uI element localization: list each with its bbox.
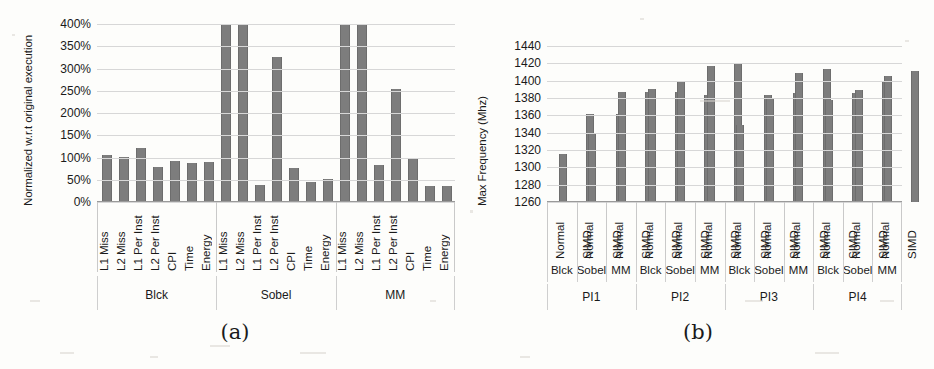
chart-a-category-label: CPI: [405, 205, 419, 271]
chart-b-benchmark-divider: [665, 260, 666, 282]
chart-b-y-tick: 1380: [514, 92, 541, 104]
chart-a-bar: [323, 179, 333, 202]
chart-b-supergroup-label: PI2: [671, 290, 689, 304]
chart-b-benchmark-label: Blck: [551, 264, 573, 276]
chart-a-category-label: L1 Miss: [218, 205, 232, 271]
chart-b-gridline: [547, 185, 902, 186]
chart-b-panel: Max Frequency (Mhz) 12601280130013201340…: [462, 0, 934, 369]
chart-a-bar: [153, 167, 163, 202]
chart-a-category-label: Time: [184, 205, 198, 271]
scan-artifact: [30, 300, 40, 302]
chart-a-gridline: [97, 180, 455, 181]
chart-b-gridline: [547, 46, 902, 47]
chart-b-benchmark-separator: [843, 202, 844, 260]
scan-artifact: [905, 40, 909, 42]
chart-a-category-labels: L1 MissL2 MissL1 Per InstL2 Per InstCPIT…: [97, 202, 455, 272]
scan-artifact: [880, 300, 894, 302]
chart-a-category-label: L1 Per Inst: [252, 205, 266, 271]
chart-a-category-label: L1 Per Inst: [133, 205, 147, 271]
chart-b-supergroup-divider: [813, 284, 814, 310]
figure-container: Normalized w.r.t original execution 0%50…: [0, 0, 934, 369]
scan-artifact: [815, 352, 839, 354]
chart-a-category-label: L1 Miss: [337, 205, 351, 271]
chart-b-y-tick: 1280: [514, 179, 541, 191]
chart-b-category-label: Normal: [851, 205, 865, 259]
chart-b-bars: [547, 46, 902, 202]
chart-a-group-divider: [336, 276, 337, 310]
chart-a-category-label: L2 Per Inst: [269, 205, 283, 271]
chart-b-category-label: Normal: [880, 205, 894, 259]
chart-a-category-label: L2 Per Inst: [388, 205, 402, 271]
chart-b-gridline: [547, 133, 902, 134]
chart-b-benchmark-label: Blck: [817, 264, 839, 276]
chart-a-category-label: Energy: [439, 205, 453, 271]
chart-a-category-label: Time: [303, 205, 317, 271]
chart-a-y-tick: 150%: [60, 129, 91, 141]
chart-b-caption: (b): [462, 320, 934, 344]
chart-b-benchmark-separator: [901, 202, 902, 260]
chart-b-benchmark-separator: [784, 202, 785, 260]
chart-b-benchmark-label: Sobel: [577, 264, 606, 276]
chart-a-group-separator: [97, 202, 98, 272]
chart-b-benchmark-separator: [606, 202, 607, 260]
chart-a-y-tick: 350%: [60, 40, 91, 52]
chart-a-plot-area: [97, 24, 455, 202]
chart-a-category-label: CPI: [167, 205, 181, 271]
chart-a-bar: [204, 162, 214, 202]
chart-b-benchmark-label: MM: [700, 264, 719, 276]
chart-a-category-label: Energy: [201, 205, 215, 271]
chart-b-benchmark-labels: BlckSobelMMBlckSobelMMBlckSobelMMBlckSob…: [547, 260, 902, 282]
chart-b-gridline: [547, 150, 902, 151]
chart-b-y-axis-ticks: 1260128013001320134013601380140014201440: [480, 46, 541, 202]
scan-artifact: [60, 352, 74, 354]
chart-b-bar: [707, 66, 715, 202]
chart-a-bar: [425, 186, 435, 202]
chart-b-category-label: Normal: [644, 205, 658, 259]
chart-b-benchmark-divider: [901, 260, 902, 282]
chart-a-group-divider: [97, 276, 98, 310]
chart-b-benchmark-label: Sobel: [843, 264, 872, 276]
chart-a-category-label: Energy: [320, 205, 334, 271]
chart-b-bar: [736, 125, 744, 202]
chart-b-gridline: [547, 98, 902, 99]
chart-b-y-tick: 1300: [514, 161, 541, 173]
chart-b-category-label: Normal: [614, 205, 628, 259]
chart-b-benchmark-divider: [843, 260, 844, 282]
chart-a-y-tick: 0%: [74, 196, 91, 208]
chart-b-gridline: [547, 63, 902, 64]
chart-b-benchmark-separator: [754, 202, 755, 260]
chart-b-benchmark-divider: [872, 260, 873, 282]
scan-artifact: [640, 18, 644, 20]
chart-a-category-label: Time: [422, 205, 436, 271]
chart-b-supergroup-divider: [547, 284, 548, 310]
chart-a-gridline: [97, 24, 455, 25]
chart-b-gridline: [547, 167, 902, 168]
chart-b-benchmark-divider: [606, 260, 607, 282]
chart-b-category-label: Normal: [762, 205, 776, 259]
chart-a-gridline: [97, 46, 455, 47]
chart-b-supergroup-divider: [725, 284, 726, 310]
chart-a-category-label: L1 Per Inst: [371, 205, 385, 271]
scan-artifact: [745, 300, 763, 302]
chart-b-y-tick: 1360: [514, 109, 541, 121]
chart-a-bar: [187, 163, 197, 202]
chart-a-y-tick: 100%: [60, 152, 91, 164]
scan-artifact: [12, 34, 15, 36]
chart-b-benchmark-separator: [872, 202, 873, 260]
chart-b-category-label: Normal: [732, 205, 746, 259]
chart-a-gridline: [97, 69, 455, 70]
chart-a-y-axis-ticks: 0%50%100%150%200%250%300%350%400%: [30, 24, 91, 202]
chart-a-y-tick: 400%: [60, 18, 91, 30]
chart-b-category-label: Normal: [703, 205, 717, 259]
chart-b-category-label: Normal: [791, 205, 805, 259]
chart-a-category-label: CPI: [286, 205, 300, 271]
chart-b-category-labels: NormalSIMDNormalSIMDNormalSIMDNormalSIMD…: [547, 202, 902, 260]
chart-a-bar: [391, 89, 401, 202]
chart-b-supergroup-divider: [901, 284, 902, 310]
chart-b-supergroup-divider: [636, 284, 637, 310]
chart-a-category-label: L1 Miss: [99, 205, 113, 271]
chart-a-group-separator: [336, 202, 337, 272]
chart-a-group-divider: [216, 276, 217, 310]
chart-b-y-tick: 1400: [514, 75, 541, 87]
chart-a-group-separator: [454, 202, 455, 272]
